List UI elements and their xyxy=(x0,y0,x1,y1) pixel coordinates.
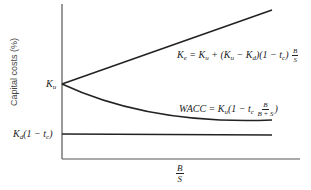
ku-tick-label: Ku xyxy=(46,78,56,91)
chart-canvas xyxy=(0,0,311,190)
wacc-equation: WACC = Ku(1 − tc BB + S) xyxy=(179,101,278,118)
y-axis-label: Capital costs (%) xyxy=(9,38,19,106)
wacc-fraction: BB + S xyxy=(257,101,273,118)
kd-tick-label: Kd(1 − tc) xyxy=(13,128,52,141)
ke-equation: Ke = Ku + (Ku − Kd)(1 − tc) BS xyxy=(177,47,299,64)
kd-line xyxy=(62,134,272,135)
ke-fraction: BS xyxy=(292,47,298,64)
x-axis-label: BS xyxy=(175,163,185,184)
